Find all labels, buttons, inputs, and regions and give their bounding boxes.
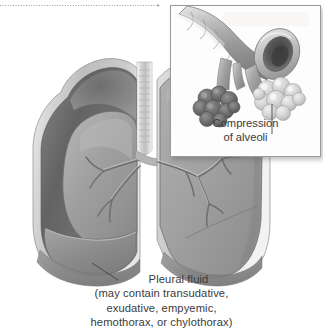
inset-watermark: [223, 12, 309, 26]
left-hemithorax: [33, 59, 140, 287]
pleural-effusion-figure: Pleural fluid (may contain transudative,…: [0, 0, 323, 335]
bronchiole-and-alveoli: [171, 6, 320, 156]
trachea: [135, 62, 158, 166]
alveoli-detail-inset: Compression of alveoli: [170, 5, 321, 157]
bronchiole-branch-left: [217, 58, 232, 90]
crop-plus-mark: [157, 4, 160, 7]
dotted-crop-rule: [0, 4, 162, 7]
